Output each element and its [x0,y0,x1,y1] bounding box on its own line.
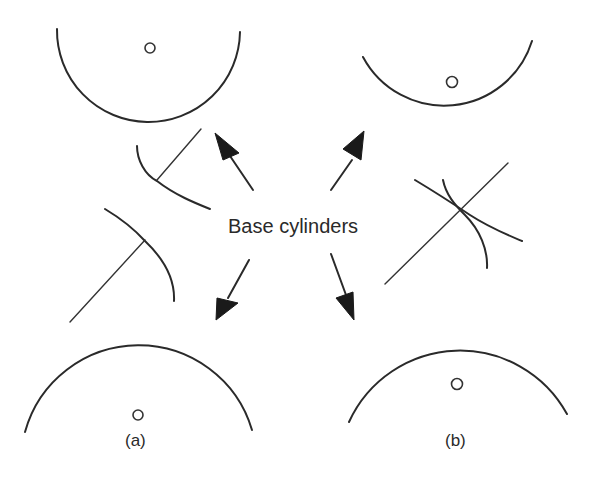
involute-gear-diagram: (a) (b) Base cylinders [0,0,592,481]
panel-b-lower-base-circle [349,351,567,422]
panel-b-upper-involute [415,180,522,241]
panel-a-lower-involute [105,209,174,301]
panel-a-upper-involute [137,146,210,209]
panel-b-upper-center-mark [447,77,458,88]
panel-a-lower-base-circle [25,345,252,432]
panel-a-caption: (a) [125,431,146,450]
arrow-icon-b-upper [331,131,364,190]
panel-b-lower-involute [443,180,487,268]
panel-a-lower-tangent [70,240,145,322]
panel-b-common-tangent [385,163,508,284]
panel-a-lower-center-mark [133,410,143,420]
panel-a-upper-tangent [157,129,201,180]
callout: Base cylinders [215,131,364,320]
base-cylinders-label: Base cylinders [228,215,358,237]
panel-b-upper-base-circle [363,41,532,106]
arrow-icon-a-upper [215,133,253,190]
panel-a-upper-center-mark [145,43,155,53]
panel-b-lower-center-mark [452,379,463,390]
arrow-icon-b-lower [331,254,354,320]
panel-a: (a) [25,29,252,450]
panel-b-caption: (b) [445,431,466,450]
panel-b: (b) [349,41,567,450]
arrow-icon-a-lower [216,260,249,320]
